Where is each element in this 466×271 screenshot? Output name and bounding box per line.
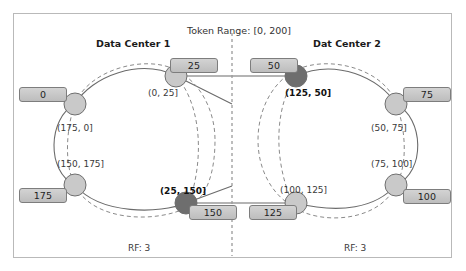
token-range-label-3: (25, 150]	[160, 187, 206, 196]
token-range-label: Token Range: [0, 200]	[187, 26, 291, 36]
token-range-label-0: (0, 25]	[148, 89, 178, 98]
token-range-label-5: (50, 75]	[371, 124, 407, 133]
token-range-label-7: (100, 125]	[280, 186, 327, 195]
node-token-box-100[interactable]: 100	[403, 189, 451, 204]
data-center-1-title: Data Center 1	[96, 39, 170, 49]
token-range-label-2: (150, 175]	[57, 160, 104, 169]
node-token-label: 50	[268, 60, 281, 71]
node-token-box-125[interactable]: 125	[249, 205, 297, 220]
node-token-box-50[interactable]: 50	[250, 58, 298, 73]
node-token-label: 125	[264, 207, 283, 218]
node-token-box-175[interactable]: 175	[19, 188, 67, 203]
token-range-label-6: (75, 100]	[371, 160, 412, 169]
rf-right-label: RF: 3	[344, 244, 366, 253]
node-token-label: 175	[34, 190, 53, 201]
node-token-label: 0	[40, 89, 46, 100]
caption-sliver	[60, 264, 446, 270]
node-token-label: 100	[418, 191, 437, 202]
token-range-label-4: (125, 50]	[285, 89, 331, 98]
node-token-label: 25	[188, 60, 201, 71]
token-range-label-1: (175, 0]	[57, 124, 93, 133]
node-token-box-75[interactable]: 75	[403, 87, 451, 102]
node-token-label: 75	[421, 89, 434, 100]
node-token-box-0[interactable]: 0	[19, 87, 67, 102]
node-token-box-150[interactable]: 150	[189, 205, 237, 220]
rf-left-label: RF: 3	[128, 244, 150, 253]
diagram-frame	[13, 13, 452, 258]
node-token-label: 150	[204, 207, 223, 218]
diagram-canvas: 0255075100125150175 (0, 25](175, 0](150,…	[0, 0, 466, 271]
data-center-2-title: Dat Center 2	[313, 39, 381, 49]
node-token-box-25[interactable]: 25	[170, 58, 218, 73]
